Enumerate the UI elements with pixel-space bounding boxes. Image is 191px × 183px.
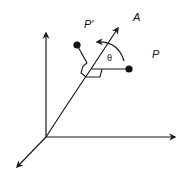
- rotation-diagram: A P' P θ: [0, 0, 191, 183]
- depth-axis: [17, 137, 46, 167]
- point-p-prime: [73, 41, 80, 48]
- rotation-axis-a: [46, 28, 118, 137]
- label-axis-a: A: [132, 11, 140, 23]
- label-p-prime: P': [84, 18, 94, 30]
- label-p: P: [152, 48, 160, 60]
- right-angle-marker-p-prime: [81, 63, 87, 77]
- label-theta: θ: [107, 53, 112, 63]
- point-p: [125, 65, 132, 72]
